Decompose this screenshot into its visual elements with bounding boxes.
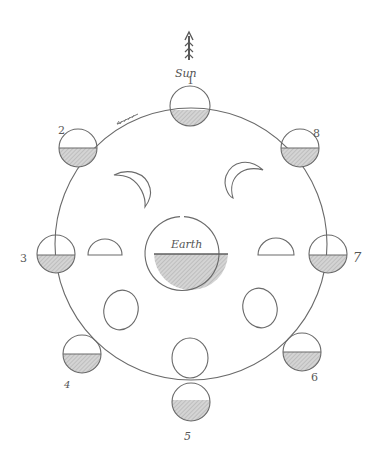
last-quarter-moon <box>258 238 294 255</box>
orbit-moon-3: 3 <box>20 235 75 273</box>
moon-number-4: 4 <box>63 379 70 390</box>
first-quarter-moon <box>88 239 122 255</box>
full-moon <box>172 338 208 378</box>
gibbous-moon-left <box>99 286 142 333</box>
sun-arrow-icon <box>185 32 193 60</box>
orbit-direction-arrow-icon <box>117 114 138 124</box>
orbit-moon-2: 2 <box>58 124 97 167</box>
moon-number-5: 5 <box>184 430 191 443</box>
moon-phases-diagram: Sun Earth 1 2 <box>0 0 384 461</box>
earth-label: Earth <box>170 238 202 251</box>
moon-number-7: 7 <box>353 250 362 265</box>
moon-number-3: 3 <box>20 252 27 265</box>
orbit-moon-5: 5 <box>172 383 210 443</box>
orbit-moon-4: 4 <box>63 335 101 390</box>
waning-crescent-moon <box>225 162 263 198</box>
waxing-crescent-moon <box>114 172 151 207</box>
gibbous-moon-right <box>238 284 281 331</box>
moon-number-2: 2 <box>58 124 65 137</box>
orbit-moon-6: 6 <box>283 333 321 384</box>
earth: Earth <box>145 216 228 291</box>
orbit-moon-1: 1 <box>170 74 210 126</box>
orbit-moon-7: 7 <box>309 235 362 273</box>
moon-number-1: 1 <box>187 74 194 87</box>
moon-number-6: 6 <box>311 371 318 384</box>
moon-number-8: 8 <box>313 127 320 140</box>
